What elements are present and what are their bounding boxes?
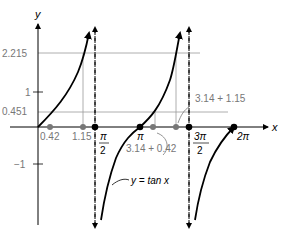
dot-pi-half	[92, 124, 99, 131]
dot-2pi	[231, 124, 238, 131]
tan-branch-1	[38, 33, 89, 127]
y-label-0451: 0.451	[2, 106, 27, 117]
annotation-356: 3.14 + 0.42	[126, 143, 177, 154]
x-label-3pi-half-den: 2	[197, 145, 203, 156]
dot-042	[47, 124, 53, 130]
dot-356	[150, 124, 156, 130]
dot-3pi-half	[186, 124, 193, 131]
x-label-042: 0.42	[40, 131, 60, 142]
leader-curve	[112, 179, 129, 185]
tan-graph: y x 2.215 1 0.451 −1 0.42 1.15 π 2 π 3π …	[0, 0, 287, 237]
x-label-115: 1.15	[72, 131, 92, 142]
x-label-3pi-half-num: 3π	[194, 131, 207, 142]
x-label-pi-half-den: 2	[100, 145, 106, 156]
curve-label: y = tan x	[130, 175, 170, 186]
y-label-2215: 2.215	[2, 48, 27, 59]
x-axis-label: x	[271, 121, 278, 133]
leader-429	[178, 107, 189, 123]
dot-pi	[137, 124, 144, 131]
guide-lines	[38, 53, 228, 127]
y-label-m1: −1	[14, 159, 26, 170]
x-label-2pi: 2π	[236, 131, 250, 142]
annotation-429: 3.14 + 1.15	[195, 93, 246, 104]
x-label-pi-half-num: π	[100, 131, 107, 142]
y-label-1: 1	[25, 87, 31, 98]
dot-429	[173, 124, 179, 130]
y-axis-label: y	[34, 8, 42, 20]
x-label-pi: π	[137, 131, 144, 142]
dot-115	[80, 124, 86, 130]
